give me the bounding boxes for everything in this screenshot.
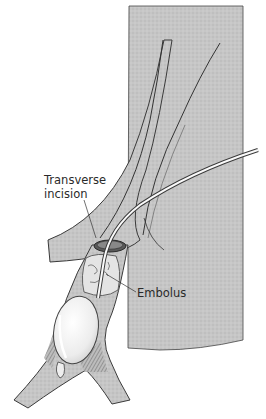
label-line-2: incision	[44, 187, 106, 201]
label-transverse-incision: Transverse incision	[44, 173, 106, 201]
embolectomy-illustration	[0, 0, 266, 419]
label-line-1: Transverse	[44, 173, 106, 187]
label-embolus: Embolus	[137, 286, 186, 300]
